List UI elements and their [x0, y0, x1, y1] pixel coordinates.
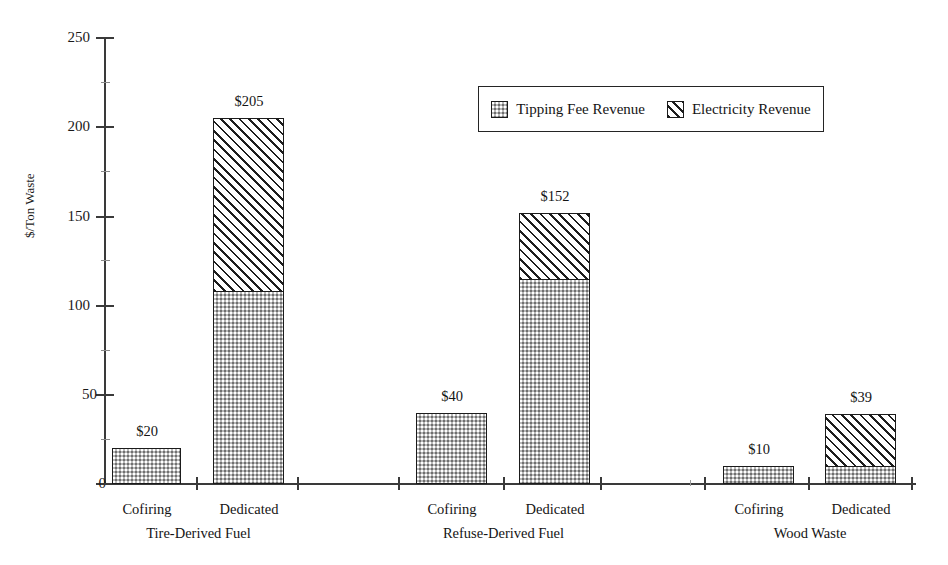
- y-tick-100: [96, 305, 114, 307]
- bar-value-label: $20: [92, 424, 202, 439]
- bar-refuse-cofiring: [416, 413, 487, 484]
- y-minor-tick-175: [101, 171, 110, 172]
- y-minor-tick-75: [101, 350, 110, 351]
- y-tick-150: [96, 216, 114, 218]
- bar-segment-electricity: [826, 415, 895, 467]
- y-tick-label-200: 200: [36, 119, 90, 134]
- x-category-label-refuse-dedicated: Dedicated: [499, 501, 611, 517]
- y-minor-tick-225: [101, 82, 110, 83]
- x-minor-tick-1: [690, 480, 691, 486]
- x-group-label-tire-derived-fuel: Tire-Derived Fuel: [92, 525, 305, 541]
- y-tick-label-100: 100: [36, 298, 90, 313]
- bar-segment-tipping-fee: [520, 280, 589, 483]
- bar-segment-electricity: [520, 214, 589, 280]
- bar-value-label: $205: [193, 94, 305, 109]
- legend-label-electricity-revenue: Electricity Revenue: [692, 101, 811, 117]
- x-group-label-wood-waste: Wood Waste: [703, 525, 917, 541]
- x-tick-8: [911, 477, 913, 490]
- legend-item-tipping-fee-revenue: Tipping Fee Revenue: [491, 101, 645, 118]
- bar-refuse-dedicated: [519, 213, 590, 484]
- legend-label-tipping-fee-revenue: Tipping Fee Revenue: [516, 101, 645, 117]
- bar-segment-tipping-fee: [826, 467, 895, 483]
- bar-segment-tipping-fee: [417, 414, 486, 483]
- x-category-label-tire-cofiring: Cofiring: [92, 501, 202, 517]
- x-group-label-refuse-derived-fuel: Refuse-Derived Fuel: [396, 525, 611, 541]
- x-tick-2: [297, 477, 299, 490]
- x-category-label-refuse-cofiring: Cofiring: [396, 501, 508, 517]
- y-tick-label-50: 50: [43, 387, 97, 402]
- y-axis-line: [104, 38, 106, 485]
- bar-segment-tipping-fee: [724, 467, 793, 483]
- x-category-label-wood-cofiring: Cofiring: [703, 501, 815, 517]
- legend-swatch-stipple-icon: [491, 101, 508, 118]
- bar-wood-dedicated: [825, 414, 896, 484]
- legend-swatch-hatch-icon: [667, 101, 684, 118]
- y-tick-50: [96, 394, 114, 396]
- x-tick-5: [600, 477, 602, 490]
- bar-value-label: $39: [805, 390, 917, 405]
- bar-chart: $/Ton Waste 250 200 150 100 50 0 $20 $20…: [0, 0, 948, 565]
- x-tick-6: [704, 477, 706, 490]
- bar-value-label: $40: [396, 389, 508, 404]
- bar-tire-dedicated: [213, 118, 284, 484]
- legend-item-electricity-revenue: Electricity Revenue: [667, 101, 811, 118]
- x-tick-3: [398, 477, 400, 490]
- bar-segment-electricity: [214, 119, 283, 292]
- x-tick-7: [808, 477, 810, 490]
- x-tick-4: [503, 477, 505, 490]
- y-minor-tick-25: [101, 439, 110, 440]
- legend: Tipping Fee Revenue Electricity Revenue: [478, 86, 824, 132]
- bar-segment-tipping-fee: [113, 449, 180, 483]
- y-tick-250: [96, 37, 114, 39]
- bar-value-label: $10: [703, 442, 815, 457]
- bar-value-label: $152: [499, 189, 611, 204]
- y-tick-label-0: 0: [52, 476, 106, 491]
- bar-wood-cofiring: [723, 466, 794, 484]
- bar-tire-cofiring: [112, 448, 181, 484]
- x-tick-1: [196, 477, 198, 490]
- y-axis-title: $/Ton Waste: [22, 173, 38, 238]
- x-category-label-wood-dedicated: Dedicated: [805, 501, 917, 517]
- y-tick-label-150: 150: [36, 209, 90, 224]
- bar-segment-tipping-fee: [214, 292, 283, 483]
- y-tick-200: [96, 126, 114, 128]
- x-category-label-tire-dedicated: Dedicated: [193, 501, 305, 517]
- y-tick-label-250: 250: [36, 30, 90, 45]
- y-minor-tick-125: [101, 260, 110, 261]
